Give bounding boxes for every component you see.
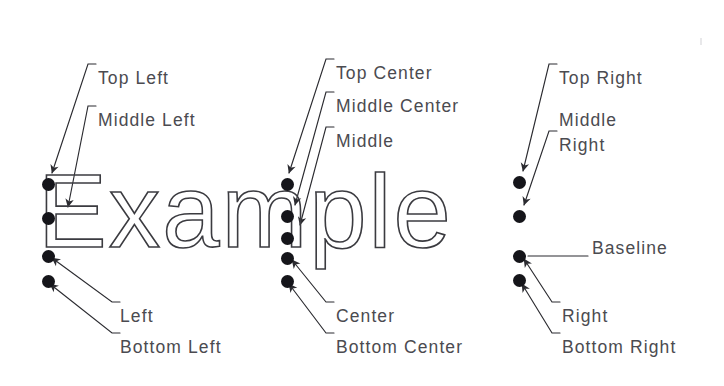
anchor-dot-top-right[interactable] — [513, 176, 526, 189]
label-bottom-right: Bottom Right — [562, 337, 676, 358]
label-top-center: Top Center — [336, 63, 433, 84]
anchor-dot-bottom-right[interactable] — [513, 274, 526, 287]
leader-bottom-center — [289, 284, 334, 333]
anchor-dot-top-center[interactable] — [281, 178, 294, 191]
label-top-right: Top Right — [559, 68, 643, 89]
label-middle: Middle — [336, 131, 394, 152]
label-middle-center: Middle Center — [336, 96, 459, 117]
label-middle-right: Middle Right — [559, 108, 617, 158]
label-middle-left: Middle Left — [98, 110, 196, 131]
anchor-dot-bottom-left[interactable] — [42, 275, 55, 288]
label-center: Center — [336, 306, 395, 327]
diagram-canvas: Example Top Left Middle Left Left Bottom… — [0, 0, 724, 386]
label-top-left: Top Left — [98, 68, 169, 89]
sample-text: Example — [38, 160, 453, 263]
anchor-dot-bottom-center[interactable] — [281, 275, 294, 288]
anchor-dot-middle-left[interactable] — [42, 212, 55, 225]
label-baseline: Baseline — [592, 238, 668, 259]
anchor-dot-middle[interactable] — [281, 232, 294, 245]
label-right: Right — [562, 306, 608, 327]
anchor-dot-center[interactable] — [281, 252, 294, 265]
label-bottom-center: Bottom Center — [336, 337, 463, 358]
leader-top-right — [523, 64, 557, 171]
leader-bottom-left — [50, 284, 120, 333]
anchor-dot-left[interactable] — [42, 250, 55, 263]
anchor-dot-middle-right[interactable] — [513, 210, 526, 223]
label-left: Left — [120, 306, 154, 327]
scan-artifact — [700, 38, 702, 45]
anchor-dot-top-left[interactable] — [42, 178, 55, 191]
anchor-dot-baseline[interactable] — [513, 250, 526, 263]
leader-bottom-right — [522, 284, 560, 333]
label-bottom-left: Bottom Left — [120, 337, 222, 358]
anchor-dot-middle-center[interactable] — [281, 210, 294, 223]
leader-middle-right — [524, 131, 557, 205]
